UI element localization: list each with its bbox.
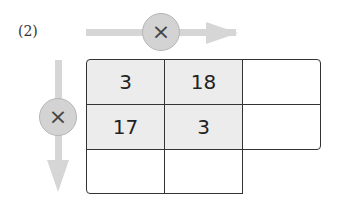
- grid-cell-r2-c1[interactable]: [164, 149, 243, 194]
- grid-cell-r2-c0[interactable]: [86, 149, 165, 194]
- multiply-icon: ×: [142, 13, 180, 51]
- grid-cell-r0-c2[interactable]: [242, 59, 321, 105]
- problem-label: (2): [18, 23, 38, 39]
- right-arrow-icon: [206, 22, 238, 44]
- grid-cell-r0-c1: 18: [164, 59, 243, 105]
- grid-cell-r1-c1: 3: [164, 104, 243, 150]
- grid-cell-r0-c0: 3: [86, 59, 165, 105]
- multiply-icon: ×: [39, 98, 77, 136]
- grid-cell-r1-c2[interactable]: [242, 104, 321, 150]
- grid-cell-r1-c0: 17: [86, 104, 165, 150]
- down-arrow-icon: [47, 160, 69, 192]
